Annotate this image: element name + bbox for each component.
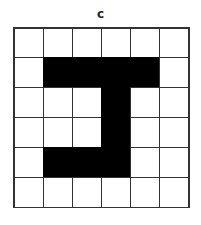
grid-cell-empty [14, 147, 44, 178]
grid-cell-empty [43, 87, 73, 118]
grid-cell-empty [14, 28, 44, 59]
grid-cell-filled [101, 57, 131, 88]
grid-cell-empty [14, 87, 44, 118]
grid-cell-filled [101, 87, 131, 118]
grid-cell-filled [101, 117, 131, 148]
grid-cell-empty [159, 147, 189, 178]
grid-cell-empty [130, 28, 160, 59]
grid-cell-empty [101, 177, 131, 208]
grid-cell-empty [159, 87, 189, 118]
grid-cell-filled [130, 57, 160, 88]
grid-cell-empty [72, 28, 102, 59]
grid-cell-filled [72, 147, 102, 178]
grid-cell-empty [159, 117, 189, 148]
grid-cell-empty [130, 177, 160, 208]
grid-cell-empty [130, 117, 160, 148]
grid-cell-empty [72, 177, 102, 208]
grid-cell-filled [43, 57, 73, 88]
grid-cell-empty [159, 28, 189, 59]
grid-cell-empty [43, 117, 73, 148]
grid-cell-empty [43, 177, 73, 208]
grid-cell-empty [72, 87, 102, 118]
grid-cell-filled [101, 147, 131, 178]
grid-cell-filled [72, 57, 102, 88]
grid-cell-empty [14, 177, 44, 208]
grid-cell-empty [101, 28, 131, 59]
grid-cell-empty [159, 177, 189, 208]
grid-cell-empty [130, 87, 160, 118]
grid-cell-empty [159, 57, 189, 88]
grid-cell-filled [43, 147, 73, 178]
grid-cell-empty [130, 147, 160, 178]
grid-cell-empty [72, 117, 102, 148]
figure-label: c [0, 7, 201, 21]
grid-cell-empty [43, 28, 73, 59]
pixel-grid [13, 27, 190, 208]
grid-cell-empty [14, 57, 44, 88]
grid-cell-empty [14, 117, 44, 148]
